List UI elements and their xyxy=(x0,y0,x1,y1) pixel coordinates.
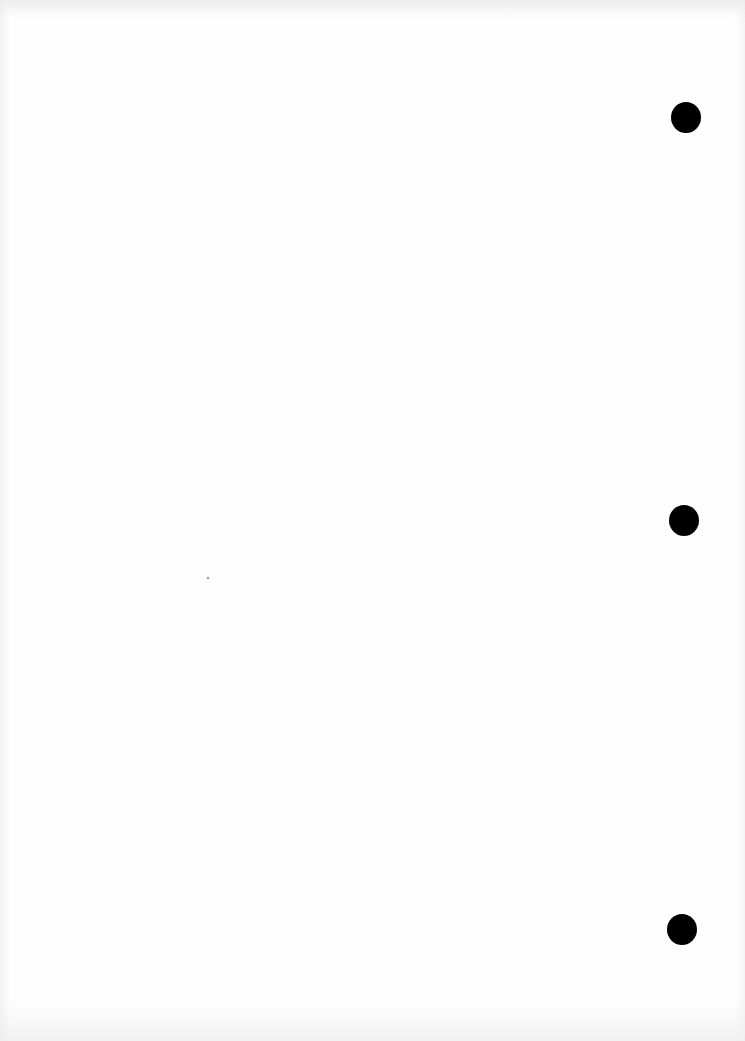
punch-hole-top xyxy=(671,102,701,133)
dust-speck xyxy=(207,577,209,579)
punch-hole-middle xyxy=(669,505,699,536)
punch-hole-bottom xyxy=(667,914,697,945)
scanned-page xyxy=(0,0,745,1041)
